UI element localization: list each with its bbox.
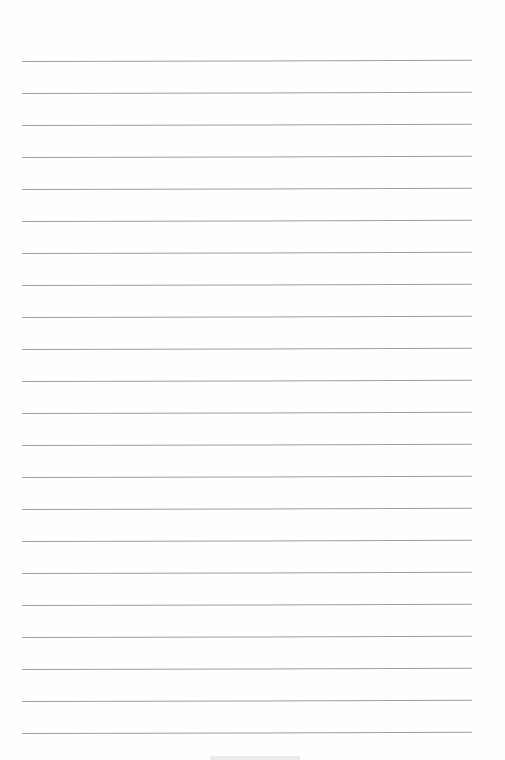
ruled-line	[22, 92, 472, 94]
ruled-line	[22, 60, 472, 62]
ruled-line	[22, 540, 472, 542]
ruled-line	[22, 380, 472, 382]
ruled-line	[22, 156, 472, 158]
ruled-line	[22, 316, 472, 318]
ruled-line	[22, 284, 472, 286]
ruled-line	[22, 348, 472, 350]
ruled-line	[22, 508, 472, 510]
ruled-line	[22, 252, 472, 254]
ruled-line	[22, 700, 472, 702]
ruled-line	[22, 444, 472, 446]
ruled-line	[22, 188, 472, 190]
ruled-line	[22, 668, 472, 670]
ruled-line	[22, 124, 472, 126]
ruled-line	[22, 220, 472, 222]
lined-paper-page	[0, 0, 505, 760]
ruled-line	[22, 604, 472, 606]
ruled-line	[22, 476, 472, 478]
ruled-line	[22, 572, 472, 574]
ruled-line	[22, 732, 472, 734]
ruled-line	[22, 412, 472, 414]
footer-mark	[210, 756, 300, 760]
ruled-line	[22, 636, 472, 638]
